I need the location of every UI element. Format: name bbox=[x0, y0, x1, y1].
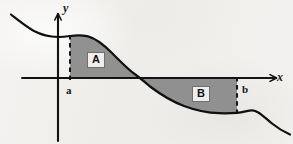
region-label-b: B bbox=[192, 86, 210, 102]
x-axis-label: x bbox=[277, 71, 283, 83]
integral-area-figure: y x a b A B bbox=[0, 0, 293, 144]
region-label-a: A bbox=[87, 52, 105, 68]
function-curve bbox=[11, 15, 290, 135]
plot-canvas bbox=[0, 0, 293, 144]
tick-label-a: a bbox=[66, 85, 72, 96]
y-axis-label: y bbox=[63, 2, 68, 14]
shaded-region-a bbox=[70, 35, 140, 78]
tick-label-b: b bbox=[242, 84, 248, 95]
